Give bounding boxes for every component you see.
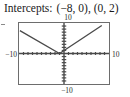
plot-curve	[20, 25, 102, 53]
y-axis-max-label: 10	[57, 13, 79, 22]
y-axis-min-label: −10	[56, 86, 78, 95]
plot-frame	[18, 22, 110, 85]
x-axis-min-label: −10	[0, 50, 17, 59]
coordinate-plane-figure: 10 −10 −10 10	[0, 15, 130, 97]
plot-svg	[19, 23, 109, 84]
intercepts-label: Intercepts:	[4, 2, 53, 14]
left-edge-mark-icon	[1, 24, 5, 25]
x-axis-max-label: 10	[112, 50, 130, 59]
graph-figure-panel: Intercepts:(−8, 0), (0, 2) 10 −10 −10 10	[0, 0, 130, 97]
